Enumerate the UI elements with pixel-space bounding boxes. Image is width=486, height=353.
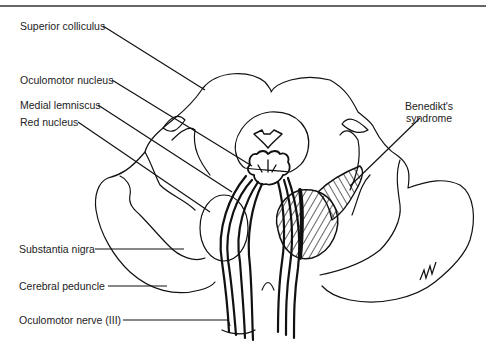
label-oculomotor-nucleus: Oculomotor nucleus	[20, 74, 113, 86]
leader-superior-colliculus	[103, 26, 205, 90]
label-oculomotor-nerve: Oculomotor nerve (III)	[19, 314, 121, 326]
label-cerebral-peduncle: Cerebral peduncle	[19, 280, 105, 292]
leader-oculomotor-nucleus	[112, 80, 252, 166]
label-benedikt-line2: syndrome	[405, 112, 453, 124]
artist-signature	[420, 262, 436, 280]
label-substantia-nigra: Substantia nigra	[19, 243, 95, 255]
midbrain-illustration	[0, 0, 486, 353]
leader-oculomotor-nerve	[123, 320, 230, 326]
cerebral-aqueduct	[254, 130, 282, 148]
label-medial-lemniscus: Medial lemniscus	[20, 99, 101, 111]
label-benedikt-syndrome: Benedikt's syndrome	[405, 100, 453, 124]
label-red-nucleus: Red nucleus	[20, 116, 78, 128]
diagram-canvas: Superior colliculus Oculomotor nucleus M…	[0, 0, 486, 353]
label-superior-colliculus: Superior colliculus	[20, 20, 105, 32]
label-benedikt-line1: Benedikt's	[405, 100, 453, 112]
leader-medial-lemniscus	[98, 105, 232, 192]
